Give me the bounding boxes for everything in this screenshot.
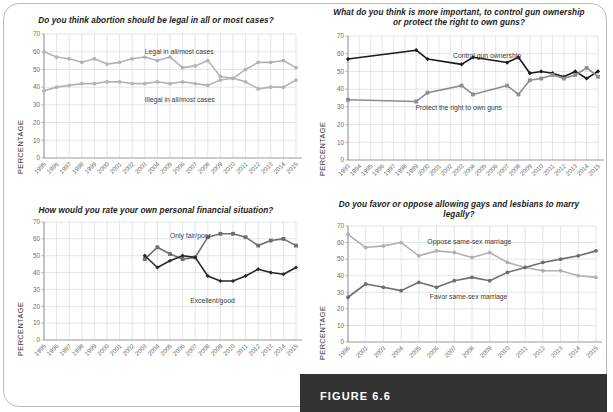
y-axis-label-abortion: PERCENTAGE [16, 120, 25, 174]
svg-text:2001: 2001 [354, 344, 369, 359]
svg-text:20: 20 [337, 305, 345, 312]
svg-text:2014: 2014 [272, 342, 287, 357]
svg-text:1997: 1997 [58, 342, 73, 357]
svg-text:2002: 2002 [121, 160, 136, 175]
series-annotation: Favor same-sex marriage [430, 293, 508, 301]
svg-text:30: 30 [337, 103, 345, 110]
series-annotation: Control gun ownership [453, 52, 521, 60]
svg-text:2003: 2003 [133, 160, 148, 175]
svg-text:2003: 2003 [133, 342, 148, 357]
svg-text:40: 40 [33, 83, 41, 90]
svg-text:1998: 1998 [70, 160, 85, 175]
svg-text:70: 70 [33, 218, 41, 225]
svg-text:2012: 2012 [247, 342, 262, 357]
chart-ssm: 0102030405060701996200120032004200520062… [310, 220, 608, 378]
svg-text:2013: 2013 [259, 160, 274, 175]
svg-text:10: 10 [33, 319, 41, 326]
svg-text:50: 50 [337, 68, 345, 75]
panel-abortion: Do you think abortion should be legal in… [6, 16, 306, 202]
svg-text:30: 30 [33, 101, 41, 108]
y-axis-label-finances: PERCENTAGE [16, 302, 25, 356]
svg-text:40: 40 [33, 269, 41, 276]
svg-text:0: 0 [36, 154, 40, 161]
figure-page: Do you think abortion should be legal in… [0, 0, 613, 412]
svg-text:10: 10 [33, 137, 41, 144]
svg-text:40: 40 [337, 85, 345, 92]
panel-finances: How would you rate your own personal fin… [6, 206, 306, 376]
series-annotation: Protect the right to own guns [416, 104, 503, 112]
svg-text:60: 60 [33, 235, 41, 242]
svg-text:60: 60 [33, 48, 41, 55]
svg-text:60: 60 [337, 50, 345, 57]
svg-text:2001: 2001 [108, 342, 123, 357]
svg-text:1995: 1995 [33, 160, 48, 175]
plot-finances: PERCENTAGE 01020304050607019951996199719… [6, 216, 306, 376]
svg-text:2000: 2000 [96, 342, 111, 357]
series-annotation: Only fair/poor [170, 232, 212, 240]
svg-text:40: 40 [337, 272, 345, 279]
plot-abortion: PERCENTAGE 01020304050607019951996199719… [6, 26, 306, 196]
svg-text:2003: 2003 [372, 344, 387, 359]
svg-text:2015: 2015 [587, 162, 602, 177]
svg-text:10: 10 [337, 322, 345, 329]
panel-title-guns: What do you think is more important, to … [310, 8, 608, 28]
svg-text:2004: 2004 [390, 344, 405, 359]
chart-abortion: 0102030405060701995199619971998199920002… [6, 26, 306, 196]
svg-text:2010: 2010 [222, 342, 237, 357]
svg-text:20: 20 [33, 303, 41, 310]
svg-text:1996: 1996 [45, 342, 60, 357]
svg-text:1995: 1995 [33, 342, 48, 357]
svg-text:2014: 2014 [567, 344, 582, 359]
plot-ssm: PERCENTAGE 01020304050607019962001200320… [310, 220, 608, 378]
svg-text:10: 10 [337, 139, 345, 146]
svg-text:1999: 1999 [83, 160, 98, 175]
svg-text:2014: 2014 [272, 160, 287, 175]
svg-text:1998: 1998 [70, 342, 85, 357]
svg-text:70: 70 [337, 222, 345, 229]
svg-text:1997: 1997 [58, 160, 73, 175]
svg-text:2009: 2009 [478, 344, 493, 359]
svg-text:20: 20 [33, 119, 41, 126]
figure-label: FIGURE 6.6 [320, 390, 391, 402]
chart-finances: 0102030405060701995199619971998199920002… [6, 216, 306, 376]
svg-text:2006: 2006 [171, 160, 186, 175]
svg-text:2011: 2011 [514, 344, 529, 359]
svg-text:2011: 2011 [234, 342, 249, 357]
series-annotation: Oppose same-sex marriage [427, 238, 511, 246]
svg-text:0: 0 [340, 338, 344, 345]
svg-text:2008: 2008 [461, 344, 476, 359]
svg-text:2010: 2010 [222, 160, 237, 175]
svg-text:2015: 2015 [285, 160, 300, 175]
svg-text:2012: 2012 [247, 160, 262, 175]
svg-text:70: 70 [33, 30, 41, 37]
svg-text:2001: 2001 [108, 160, 123, 175]
svg-text:2007: 2007 [184, 160, 199, 175]
svg-text:2008: 2008 [196, 160, 211, 175]
svg-text:50: 50 [33, 252, 41, 259]
svg-text:2005: 2005 [407, 344, 422, 359]
chart-guns: 0102030405060701993199419951996199719981… [310, 28, 608, 198]
svg-text:2010: 2010 [496, 344, 511, 359]
svg-text:2000: 2000 [96, 160, 111, 175]
svg-text:2013: 2013 [259, 342, 274, 357]
series-annotation: Illegal in all/most cases [145, 96, 215, 104]
svg-text:70: 70 [337, 32, 345, 39]
svg-text:0: 0 [36, 336, 40, 343]
svg-text:2004: 2004 [146, 160, 161, 175]
svg-text:2008: 2008 [196, 342, 211, 357]
svg-text:30: 30 [33, 286, 41, 293]
svg-text:20: 20 [337, 121, 345, 128]
y-axis-label-ssm: PERCENTAGE [318, 306, 327, 360]
svg-text:50: 50 [33, 66, 41, 73]
svg-text:2011: 2011 [234, 160, 249, 175]
svg-text:2005: 2005 [159, 342, 174, 357]
svg-text:2002: 2002 [121, 342, 136, 357]
svg-text:2007: 2007 [443, 344, 458, 359]
svg-text:2013: 2013 [549, 344, 564, 359]
svg-text:0: 0 [340, 156, 344, 163]
plot-guns: PERCENTAGE 01020304050607019931994199519… [310, 28, 608, 198]
svg-text:2005: 2005 [159, 160, 174, 175]
series-annotation: Excellent/good [190, 297, 235, 305]
panel-guns: What do you think is more important, to … [310, 8, 608, 202]
y-axis-label-guns: PERCENTAGE [318, 122, 327, 176]
